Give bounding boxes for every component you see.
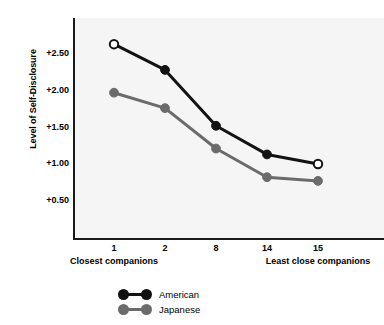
legend: American Japanese	[118, 287, 200, 317]
data-point-american-1	[110, 40, 118, 48]
legend-label-american: American	[159, 289, 199, 300]
legend-swatch-japanese	[118, 304, 152, 315]
legend-dot-right-japanese	[141, 304, 152, 315]
legend-swatch-american	[118, 289, 152, 300]
data-point-japanese-8	[212, 144, 221, 153]
legend-label-japanese: Japanese	[159, 304, 200, 315]
legend-dot-right-american	[141, 289, 152, 300]
data-point-american-15	[314, 160, 322, 168]
legend-dot-left-japanese	[118, 304, 129, 315]
data-point-japanese-15	[314, 176, 323, 185]
data-point-japanese-14	[263, 173, 272, 182]
legend-item-american[interactable]: American	[118, 287, 200, 302]
series-overlay	[0, 0, 384, 325]
data-point-american-2	[161, 66, 170, 75]
legend-item-japanese[interactable]: Japanese	[118, 302, 200, 317]
series-line-japanese	[114, 93, 318, 181]
legend-dot-left-american	[118, 289, 129, 300]
data-point-japanese-1	[110, 88, 119, 97]
data-point-american-14	[263, 150, 272, 159]
data-point-japanese-2	[161, 104, 170, 113]
data-point-american-8	[212, 121, 221, 130]
self-disclosure-line-chart: Level of Self-Disclosure +2.50 +2.00 +1.…	[0, 0, 384, 325]
